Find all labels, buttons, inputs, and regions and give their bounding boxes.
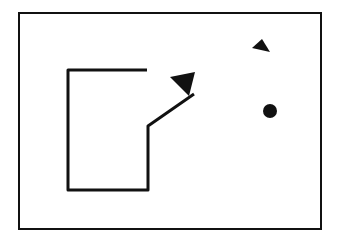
open-path-shape [68, 70, 194, 190]
diagram-canvas [0, 0, 338, 241]
dot-icon [263, 104, 277, 118]
triangle-icon [252, 39, 270, 52]
arrowhead-icon [170, 72, 195, 96]
diagram-frame [19, 13, 321, 229]
